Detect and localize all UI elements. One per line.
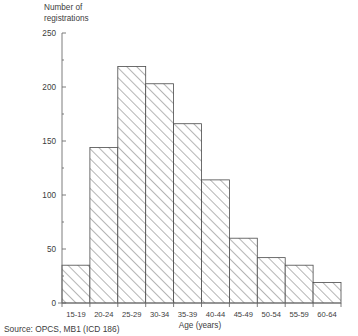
bar: [229, 238, 257, 303]
x-tick-label: 40-44: [206, 310, 225, 319]
x-tick-label: 60-64: [317, 310, 336, 319]
x-tick-label: 45-49: [234, 310, 253, 319]
y-tick-label: 50: [47, 245, 57, 254]
x-tick-label: 50-54: [262, 310, 281, 319]
bar: [257, 258, 285, 303]
histogram-chart: 050100150200250 15-1920-2425-2930-3435-3…: [0, 0, 358, 336]
bar: [118, 66, 146, 303]
x-tick-label: 20-24: [94, 310, 113, 319]
x-tick-label: 25-29: [122, 310, 141, 319]
y-tick-label: 200: [42, 83, 56, 92]
x-tick-label: 35-39: [178, 310, 197, 319]
chart-page: Number of registrations 050100150200250 …: [0, 0, 358, 336]
x-tick-label: 55-59: [289, 310, 308, 319]
x-tick-label: 30-34: [150, 310, 169, 319]
bar: [313, 282, 341, 303]
y-axis: 050100150200250: [42, 29, 66, 308]
y-tick-label: 0: [51, 299, 56, 308]
bar: [62, 265, 90, 303]
y-tick-label: 100: [42, 191, 56, 200]
y-tick-label: 150: [42, 137, 56, 146]
bar: [202, 180, 230, 303]
bars-group: [62, 66, 341, 303]
bar: [285, 265, 313, 303]
bar: [146, 84, 174, 303]
bar: [90, 147, 118, 303]
y-tick-label: 250: [42, 29, 56, 38]
bar: [174, 124, 202, 303]
x-tick-label: 15-19: [66, 310, 85, 319]
source-note: Source: OPCS, MB1 (ICD 186): [4, 324, 119, 334]
x-axis: 15-1920-2425-2930-3435-3940-4445-4950-54…: [58, 303, 341, 319]
